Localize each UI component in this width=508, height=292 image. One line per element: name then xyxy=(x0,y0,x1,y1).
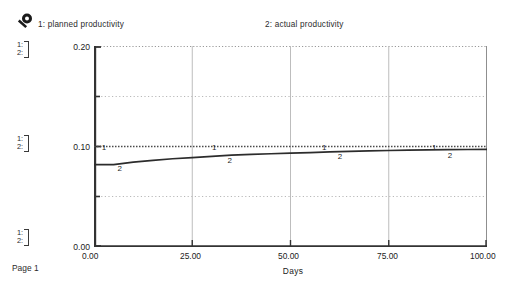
x-axis-labels: 0.00 25.00 50.00 75.00 100.00 xyxy=(0,251,508,267)
series2-marker-label: 2 xyxy=(448,151,453,160)
series1-marker-label: 1 xyxy=(212,143,217,152)
legend-item-actual-productivity: 2: actual productivity xyxy=(265,20,344,29)
scale-bracket-top xyxy=(24,41,29,58)
x-tick-label-100: 100.00 xyxy=(470,251,496,261)
scale-group-top: 1: 2: xyxy=(17,41,39,58)
x-tick-label-25: 25.00 xyxy=(180,251,201,261)
x-axis-title: Days xyxy=(0,266,508,276)
page-footer-label: Page 1 xyxy=(12,263,39,273)
magnifier-icon xyxy=(14,12,36,32)
scale-group-bottom: 1: 2: xyxy=(17,229,39,246)
series1-marker-label: 1 xyxy=(322,143,327,152)
y-axis-labels: 0.20 0.10 0.00 xyxy=(38,0,90,292)
scale-bracket-middle xyxy=(24,135,29,152)
y-tick-label-010: 0.10 xyxy=(44,142,90,152)
x-tick-label-0: 0.00 xyxy=(82,251,98,261)
scale-group-bottom-line2: 2: xyxy=(17,236,23,245)
scale-group-middle-line2: 2: xyxy=(17,142,23,151)
scale-bracket-bottom xyxy=(24,229,29,246)
y-tick-label-020: 0.20 xyxy=(44,42,90,52)
x-tick-label-50: 50.00 xyxy=(278,251,299,261)
scale-group-middle: 1: 2: xyxy=(17,135,39,152)
x-tick-label-75: 75.00 xyxy=(377,251,398,261)
series2-marker-label: 2 xyxy=(118,164,123,173)
series1-marker-label: 1 xyxy=(102,143,107,152)
scale-group-top-line2: 2: xyxy=(17,48,23,57)
chart-plot-area: 1 1 1 1 2 2 2 2 xyxy=(94,46,487,247)
series2-marker-label: 2 xyxy=(338,152,343,161)
series2-marker-label: 2 xyxy=(228,156,233,165)
